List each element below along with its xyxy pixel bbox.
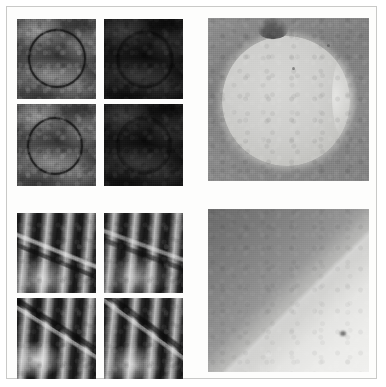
- top-right-micrograph[interactable]: [208, 18, 369, 181]
- micrograph-top-left-4[interactable]: [104, 104, 183, 186]
- bright-spot-icon: [266, 352, 271, 356]
- image-noise-texture: [104, 298, 183, 379]
- micrograph-top-left-2[interactable]: [104, 19, 183, 99]
- bright-region-feature: [17, 213, 96, 293]
- ring-feature-icon: [28, 29, 86, 87]
- micrograph-bottom-left-4[interactable]: [104, 298, 183, 379]
- image-grain-texture: [104, 298, 183, 379]
- top-left-micrograph-grid: [17, 19, 183, 186]
- micrograph-bottom-left-2[interactable]: [104, 213, 183, 293]
- micrograph-bottom-left-3[interactable]: [17, 298, 96, 379]
- spherical-particle-feature: [222, 36, 349, 166]
- image-grain-texture: [104, 213, 183, 293]
- image-noise-texture: [104, 213, 183, 293]
- bright-region-feature: [17, 298, 96, 379]
- bright-region-feature: [104, 213, 183, 293]
- bright-region-feature: [104, 298, 183, 379]
- diagonal-defect-line-feature: [17, 298, 96, 379]
- diagonal-boundary-feature: [104, 213, 183, 293]
- bright-rim-feature: [332, 54, 358, 139]
- top-notch-feature: [258, 18, 289, 39]
- image-noise-texture: [17, 213, 96, 293]
- ring-feature-icon: [117, 31, 173, 88]
- figure-root: [0, 0, 386, 387]
- bottom-right-micrograph[interactable]: [208, 209, 369, 372]
- micrograph-top-left-1[interactable]: [17, 19, 96, 99]
- image-grain-texture: [17, 298, 96, 379]
- figure-frame: [6, 6, 377, 379]
- image-noise-texture: [17, 298, 96, 379]
- micrograph-bottom-left-1[interactable]: [17, 213, 96, 293]
- bottom-left-micrograph-grid: [17, 213, 183, 379]
- diagonal-defect-line-feature: [104, 298, 183, 379]
- image-grain-texture: [17, 213, 96, 293]
- ring-feature-icon: [117, 117, 172, 173]
- diagonal-boundary-feature: [17, 213, 96, 293]
- speck-icon: [292, 67, 295, 70]
- ring-feature-icon: [27, 117, 83, 175]
- micrograph-top-left-3[interactable]: [17, 104, 96, 186]
- diagonal-boundary-feature: [208, 209, 369, 372]
